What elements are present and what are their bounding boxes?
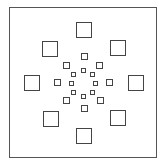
square-inner-right — [93, 81, 98, 86]
square-middle-lower-right — [97, 97, 104, 104]
square-outer-upper-right — [110, 40, 126, 56]
square-middle-lower-left — [63, 97, 70, 104]
square-middle-upper-left — [63, 62, 70, 69]
square-outer-upper-left — [42, 41, 58, 57]
square-outer-lower-right — [110, 110, 126, 126]
square-outer-lower-left — [43, 111, 59, 127]
square-pattern-diagram — [0, 0, 164, 165]
square-inner-upper-right — [90, 72, 95, 77]
square-inner-upper-left — [71, 72, 76, 77]
square-outer-bottom — [76, 128, 92, 144]
square-middle-top — [81, 53, 88, 60]
square-middle-left — [54, 79, 61, 86]
square-middle-right — [106, 79, 113, 86]
square-inner-top — [81, 68, 86, 73]
square-inner-lower-right — [90, 90, 95, 95]
square-inner-left — [69, 81, 74, 86]
square-outer-right — [128, 75, 144, 91]
square-outer-left — [24, 75, 40, 91]
square-middle-upper-right — [96, 62, 103, 69]
square-middle-bottom — [81, 105, 88, 112]
square-inner-lower-left — [71, 90, 76, 95]
square-outer-top — [76, 22, 92, 38]
square-inner-bottom — [81, 94, 86, 99]
